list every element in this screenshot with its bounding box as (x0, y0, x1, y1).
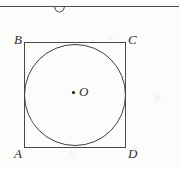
center-point-dot (72, 91, 75, 94)
cropped-arc-glyph (55, 6, 65, 12)
geometry-figure: B C A D O (0, 0, 179, 169)
inscribed-circle-o (25, 45, 126, 146)
vertex-label-b: B (14, 33, 22, 46)
figure-canvas (0, 0, 179, 169)
vertex-label-d: D (128, 147, 137, 160)
vertex-label-c: C (128, 33, 137, 46)
vertex-label-a: A (14, 147, 22, 160)
center-label-o: O (79, 85, 88, 98)
